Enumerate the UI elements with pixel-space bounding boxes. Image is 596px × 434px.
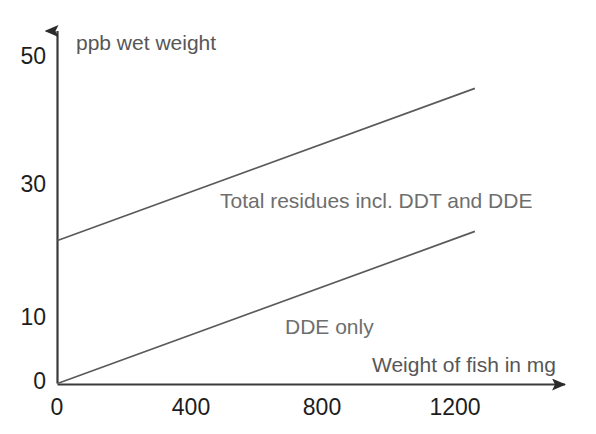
series-label-total-residues: Total residues incl. DDT and DDE xyxy=(220,190,532,211)
x-tick-label-800: 800 xyxy=(291,396,353,419)
x-tick-label-400: 400 xyxy=(160,396,222,419)
y-tick-label-10: 10 xyxy=(8,306,46,329)
y-tick-label-0: 0 xyxy=(8,370,46,393)
y-tick-label-30: 30 xyxy=(8,173,46,196)
y-axis-title: ppb wet weight xyxy=(76,32,216,53)
x-tick-label-0: 0 xyxy=(35,396,79,419)
series-line-total-residues xyxy=(58,88,475,240)
series-label-dde-only: DDE only xyxy=(285,316,374,337)
y-tick-label-50: 50 xyxy=(8,45,46,68)
x-axis-title: Weight of fish in mg xyxy=(372,354,556,375)
chart-figure: ppb wet weight Weight of fish in mg 50 3… xyxy=(0,0,596,434)
x-tick-label-1200: 1200 xyxy=(416,396,494,419)
